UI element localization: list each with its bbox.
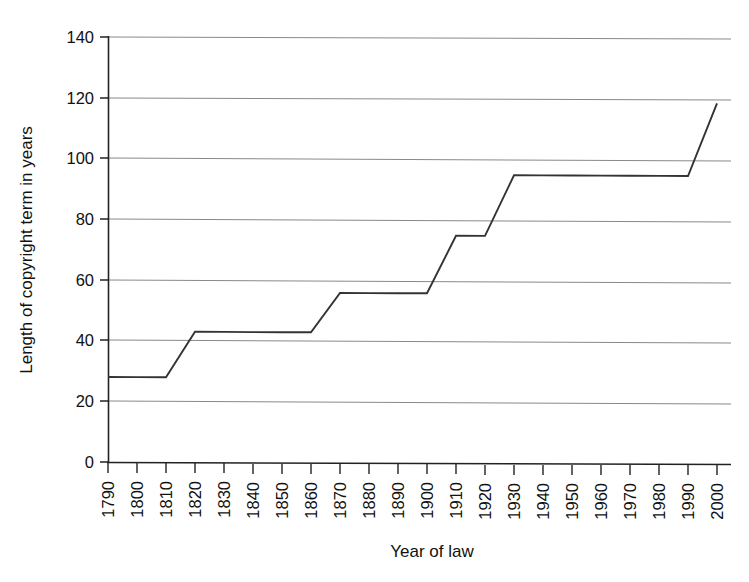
x-tick-label: 1830	[215, 481, 233, 518]
x-tick-label: 1910	[447, 482, 465, 519]
y-tick-label: 0	[85, 453, 94, 471]
x-tick-label: 1790	[99, 481, 117, 518]
y-tick-label: 120	[66, 89, 94, 107]
y-tick-label: 140	[66, 28, 94, 46]
x-tick-label: 1900	[418, 482, 436, 519]
x-tick-label: 1970	[621, 483, 639, 520]
y-tick-label: 80	[76, 210, 94, 228]
x-tick-label: 1950	[563, 483, 581, 520]
x-tick-label: 1990	[679, 483, 697, 520]
x-tick-label: 1960	[592, 483, 610, 520]
y-tick-label: 40	[76, 331, 94, 349]
x-tick-label: 1860	[302, 482, 320, 519]
chart-container: 140 120 100 80 60 40 20 0	[0, 0, 749, 582]
line-chart: 140 120 100 80 60 40 20 0	[0, 0, 749, 582]
y-axis-title: Length of copyright term in years	[17, 126, 36, 374]
x-tick-label: 1840	[244, 482, 262, 519]
y-tick-label: 20	[76, 392, 94, 410]
x-tick-label: 1850	[273, 482, 291, 519]
x-tick-label: 1890	[389, 482, 407, 519]
x-tick-label: 1800	[128, 481, 146, 518]
y-tick-label: 60	[76, 271, 94, 289]
x-axis-title: Year of law	[390, 542, 474, 561]
x-tick-label: 2000	[708, 483, 726, 520]
x-tick-label: 1820	[186, 481, 204, 518]
x-tick-label: 1870	[331, 482, 349, 519]
y-tick-label: 100	[66, 149, 94, 167]
x-tick-label: 1810	[157, 481, 175, 518]
x-tick-label: 1980	[650, 483, 668, 520]
x-tick-label: 1940	[534, 483, 552, 520]
x-tick-label: 1930	[505, 483, 523, 520]
x-tick-label: 1920	[476, 483, 494, 520]
x-tick-label: 1880	[360, 482, 378, 519]
